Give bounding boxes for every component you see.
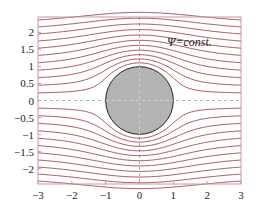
x-tick-label: 0 (137, 189, 143, 201)
y-tick-label: 2 (29, 26, 35, 38)
streamline (38, 146, 241, 161)
y-tick-label: −1 (22, 129, 34, 141)
y-tick-label: −2 (22, 163, 34, 175)
y-tick-label: 0.5 (20, 77, 34, 89)
y-tick-label: 0 (29, 95, 35, 107)
x-tick-label: −3 (32, 189, 44, 201)
y-tick-label: −1.5 (14, 146, 34, 158)
streamline-chart: −3−2−10123 21.510.50−0.5−1−1.5−2 Ψ=const… (0, 0, 261, 207)
x-tick-label: −2 (66, 189, 78, 201)
y-tick-label: 1 (29, 60, 35, 72)
y-tick-label: −0.5 (14, 112, 34, 124)
x-tick-label: −1 (100, 189, 112, 201)
streamline (38, 138, 241, 155)
x-tick-label: 3 (238, 189, 244, 201)
x-tick-label: 1 (171, 189, 177, 201)
x-tick-label: 2 (204, 189, 210, 201)
cylinder (106, 67, 174, 135)
psi-annotation: Ψ=const. (167, 35, 212, 49)
y-tick-label: 1.5 (20, 43, 34, 55)
y-tick-labels: 21.510.50−0.5−1−1.5−2 (14, 26, 41, 174)
